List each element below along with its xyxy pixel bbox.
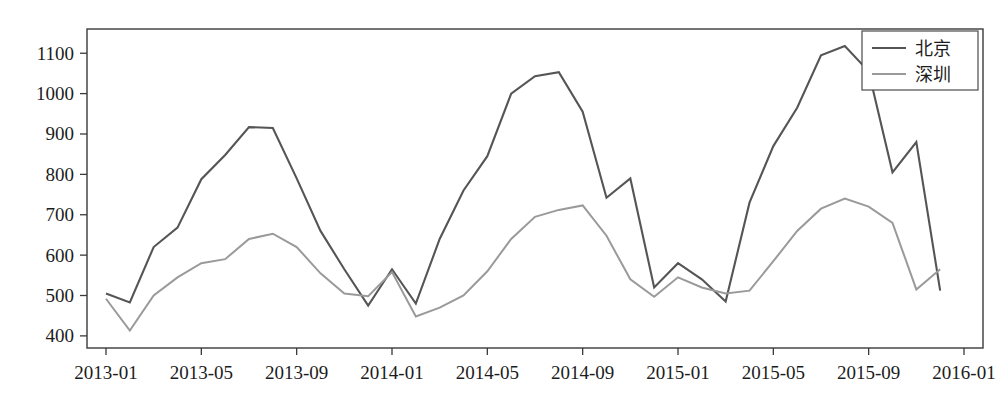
x-tick-label: 2014-09 — [551, 362, 614, 383]
x-tick-label: 2014-01 — [360, 362, 423, 383]
y-tick-label: 800 — [46, 164, 75, 185]
x-tick-label: 2015-09 — [837, 362, 900, 383]
y-tick-label: 1100 — [37, 43, 74, 64]
x-tick-label: 2013-05 — [170, 362, 233, 383]
x-tick-label: 2015-01 — [646, 362, 709, 383]
legend-label-shenzhen: 深圳 — [915, 64, 951, 85]
y-tick-label: 600 — [46, 245, 75, 266]
y-tick-label: 700 — [46, 204, 75, 225]
x-tick-label: 2013-01 — [74, 362, 137, 383]
chart-page: 11001000900800700600500400 2013-012013-0… — [0, 0, 1008, 412]
x-tick-label: 2014-05 — [456, 362, 519, 383]
chart-legend: 北京 深圳 — [862, 31, 978, 90]
x-tick-label: 2013-09 — [265, 362, 328, 383]
legend-label-beijing: 北京 — [915, 38, 951, 59]
line-chart: 11001000900800700600500400 2013-012013-0… — [0, 0, 1008, 412]
y-tick-label: 1000 — [36, 83, 74, 104]
y-tick-label: 400 — [46, 325, 75, 346]
y-tick-label: 900 — [46, 123, 75, 144]
chart-background — [0, 0, 1008, 412]
x-tick-label: 2015-05 — [742, 362, 805, 383]
y-tick-label: 500 — [46, 285, 75, 306]
x-tick-label: 2016-01 — [932, 362, 995, 383]
